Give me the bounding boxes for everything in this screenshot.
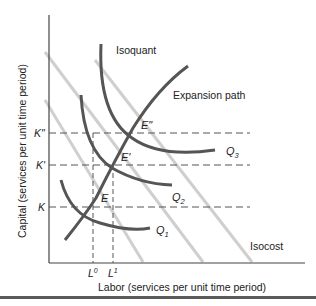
x-axis-title: Labor (services per unit time period) (98, 281, 266, 293)
e-double-prime-label: E" (141, 119, 153, 131)
k-tick: K (38, 201, 46, 213)
k-prime-tick: K' (36, 159, 46, 171)
y-axis-title: Capital (services per unit time period) (16, 64, 28, 238)
isoquant-label: Isoquant (116, 44, 156, 56)
expansion-path-label: Expansion path (173, 89, 246, 101)
q1-label: Q1 (156, 224, 169, 239)
e-prime-label: E' (121, 151, 131, 163)
isoquant-diagram: Isoquant Expansion path Isocost Q3 Q2 Q1… (0, 0, 316, 306)
l0-tick: L0 (88, 267, 98, 279)
isocost-line-1 (45, 100, 143, 262)
bottom-rule (0, 296, 316, 299)
q3-label: Q3 (226, 145, 240, 160)
q2-label: Q2 (172, 191, 186, 206)
isocost-label: Isocost (250, 240, 283, 252)
l1-tick: L1 (108, 267, 118, 279)
isoquant-q1 (61, 180, 150, 229)
k-double-prime-tick: K" (34, 127, 46, 139)
e-label: E (101, 192, 109, 204)
